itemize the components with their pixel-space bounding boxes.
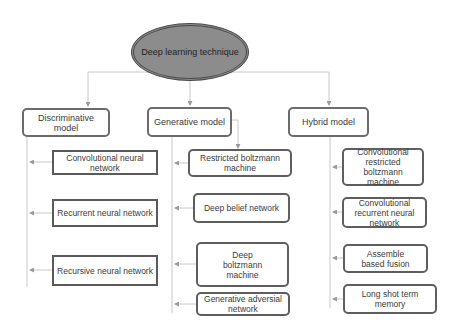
category-label: Discriminative model [27, 113, 105, 133]
category-label: Generative model [154, 117, 225, 127]
node-long-shot-term-memory: Long shot term memory [343, 284, 437, 314]
node-label: Recurrent neural network [57, 208, 152, 218]
node-label: Restricted boltzmann machine [193, 153, 287, 173]
node-restricted-boltzmann-machine: Restricted boltzmann machine [188, 149, 292, 177]
root-node-deep-learning-technique: Deep learning technique [131, 23, 249, 81]
node-label: Convolutional restricted boltzmann machi… [347, 147, 419, 187]
category-label: Hybrid model [302, 117, 355, 127]
category-generative-model: Generative model [147, 107, 232, 137]
node-label: Deep belief network [204, 203, 279, 213]
node-recursive-neural-network: Recursive neural network [52, 255, 158, 286]
node-label: Convolutional recurrent neural network [352, 198, 417, 228]
node-label: Assemble based fusion [355, 249, 416, 269]
node-assemble-based-fusion: Assemble based fusion [343, 244, 428, 273]
diagram-canvas: Deep learning technique Discriminative m… [0, 0, 459, 330]
node-generative-adversial-network: Generative adversial network [196, 292, 290, 316]
root-label: Deep learning technique [141, 47, 239, 57]
node-label: Long shot term memory [346, 289, 434, 309]
category-discriminative-model: Discriminative model [22, 108, 110, 137]
node-deep-belief-network: Deep belief network [193, 193, 290, 223]
category-hybrid-model: Hybrid model [288, 107, 369, 137]
node-convolutional-neural-network: Convolutional neural network [52, 150, 158, 175]
node-convolutional-restricted-boltzmann-machine: Convolutional restricted boltzmann machi… [342, 148, 424, 186]
node-deep-boltzmann-machine: Deep boltzmann machine [196, 242, 289, 287]
node-label: Recursive neural network [57, 266, 153, 276]
node-convolutional-recurrent-neural-network: Convolutional recurrent neural network [342, 197, 427, 228]
node-recurrent-neural-network: Recurrent neural network [52, 199, 158, 227]
node-label: Deep boltzmann machine [212, 250, 273, 280]
node-label: Convolutional neural network [57, 153, 153, 173]
node-label: Generative adversial network [201, 294, 285, 314]
